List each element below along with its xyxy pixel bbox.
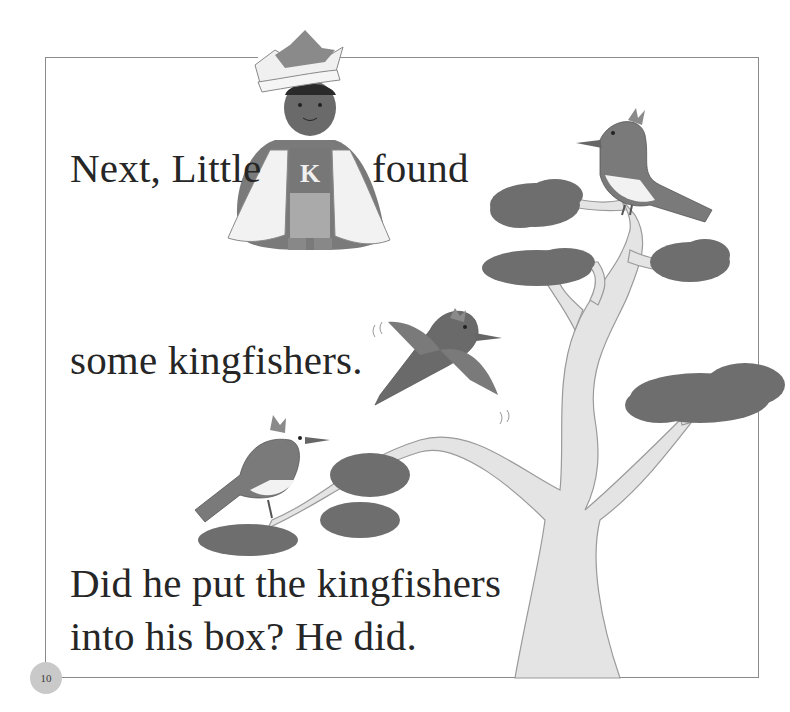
page-number-badge: 10 [30,662,62,694]
king-character-icon: K [228,30,390,250]
story-line-3: Did he put the kingfishers [70,563,501,604]
story-line-1b: found [372,148,469,189]
kingfisher-flying-icon [373,308,509,424]
page-number: 10 [41,672,52,684]
story-line-1a: Next, Little [70,148,261,189]
svg-text:K: K [300,159,321,188]
story-line-4: into his box? He did. [70,616,417,657]
story-line-2: some kingfishers. [70,340,363,381]
